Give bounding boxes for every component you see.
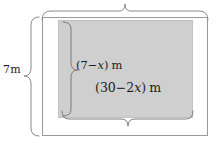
inner-width-close-paren: ) — [141, 80, 146, 95]
inner-width-unit: m — [149, 80, 161, 95]
inner-height-close-paren: ) — [104, 58, 109, 72]
outer-height-label: 7m — [3, 64, 21, 75]
inner-width-label: (30−2x)m — [95, 82, 161, 95]
inner-height-unit: m — [111, 58, 122, 72]
inner-width-minus-sign: − — [116, 80, 126, 95]
geometry-figure: 7m (7−x)m (30−2x)m — [0, 0, 217, 143]
inner-width-constant: 30 — [100, 80, 116, 95]
inner-height-label: (7−x)m — [76, 60, 122, 72]
figure-canvas — [0, 0, 217, 143]
left-brace — [24, 17, 39, 136]
inner-height-constant: 7 — [81, 58, 88, 72]
